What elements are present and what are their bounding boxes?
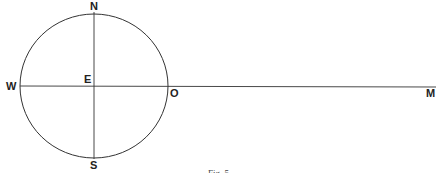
label-e: E <box>84 73 91 85</box>
label-m: M <box>426 87 435 99</box>
label-n: N <box>90 0 98 12</box>
label-w: W <box>6 80 17 92</box>
figure-caption: Fig. 5 <box>208 168 230 173</box>
diagram-canvas: N S W E O M Fig. 5 <box>0 0 440 173</box>
horizontal-line-wm <box>20 86 436 87</box>
label-s: S <box>90 159 97 171</box>
label-o: O <box>170 87 179 99</box>
